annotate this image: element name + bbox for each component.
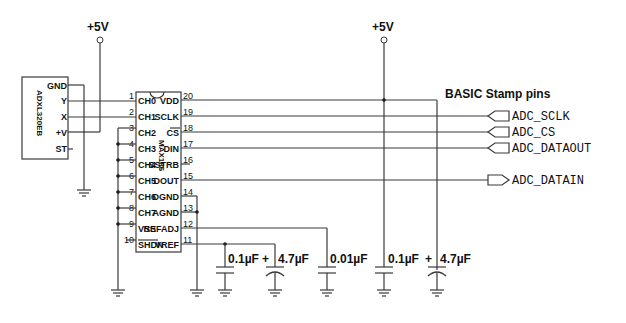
svg-text:CH1: CH1 xyxy=(138,112,156,122)
svg-text:+: + xyxy=(425,252,432,266)
net-adc-datain: ADC_DATAIN xyxy=(488,174,584,188)
ground-icon xyxy=(190,290,204,296)
adxl320eb-module: ADXL320EB GND Y X +V ST xyxy=(22,77,73,159)
capacitor-c3: 0.01µF xyxy=(318,252,368,296)
svg-text:REFADJ: REFADJ xyxy=(143,224,179,234)
svg-text:VREF: VREF xyxy=(155,240,180,250)
net-adc-dataout: ADC_DATAOUT xyxy=(488,142,591,156)
svg-text:SCLK: SCLK xyxy=(155,112,180,122)
input-port-icon xyxy=(488,143,509,153)
basic-stamp-pins: BASIC Stamp pins ADC_SCLK ADC_CS ADC_DAT… xyxy=(445,87,591,188)
power-label-right: +5V xyxy=(372,20,394,34)
svg-text:DIN: DIN xyxy=(164,144,180,154)
output-port-icon xyxy=(488,175,509,185)
capacitor-c2: + 4.7µF xyxy=(262,252,309,296)
svg-text:CS: CS xyxy=(166,128,179,138)
power-5v-left: +5V xyxy=(68,20,109,132)
svg-text:ADC_SCLK: ADC_SCLK xyxy=(512,110,570,124)
svg-text:2: 2 xyxy=(129,107,134,117)
power-terminal-icon xyxy=(381,37,387,43)
ground-icon xyxy=(77,190,91,196)
svg-text:0.1µF: 0.1µF xyxy=(388,252,419,266)
pin-st: ST xyxy=(55,144,67,154)
svg-text:ADC_DATAIN: ADC_DATAIN xyxy=(512,174,584,188)
svg-text:AGND: AGND xyxy=(153,208,180,218)
net-adc-sclk: ADC_SCLK xyxy=(488,110,570,124)
accelerometer-name: ADXL320EB xyxy=(35,90,44,136)
svg-text:CH3: CH3 xyxy=(138,144,156,154)
svg-text:CH2: CH2 xyxy=(138,128,156,138)
ground-icon xyxy=(111,290,125,296)
svg-text:0.1µF: 0.1µF xyxy=(228,252,259,266)
power-5v-right: +5V xyxy=(372,20,394,267)
svg-text:DOUT: DOUT xyxy=(154,176,180,186)
svg-text:4.7µF: 4.7µF xyxy=(278,252,309,266)
net-adc-cs: ADC_CS xyxy=(488,126,555,140)
input-port-icon xyxy=(488,111,509,121)
pin-gnd: GND xyxy=(47,81,68,91)
svg-text:4.7µF: 4.7µF xyxy=(440,252,471,266)
stamp-title: BASIC Stamp pins xyxy=(445,87,551,101)
power-label-left: +5V xyxy=(87,20,109,34)
svg-text:CH0: CH0 xyxy=(138,96,156,106)
pin-x: X xyxy=(61,112,67,122)
pin-plus-v: +V xyxy=(56,128,67,138)
capacitor-c4: 0.1µF xyxy=(375,252,419,296)
svg-text:0.01µF: 0.01µF xyxy=(330,252,368,266)
svg-text:ADC_CS: ADC_CS xyxy=(512,126,555,140)
svg-text:SSTRB: SSTRB xyxy=(148,160,179,170)
pin-y: Y xyxy=(61,96,67,106)
svg-text:+: + xyxy=(262,252,269,266)
svg-text:DGND: DGND xyxy=(153,192,180,202)
schematic-canvas: +5V ADXL320EB GND Y X +V ST MAX186 1 CH0… xyxy=(0,0,626,323)
svg-text:1: 1 xyxy=(129,91,134,101)
capacitor-c5: + 4.7µF xyxy=(425,252,471,296)
svg-text:ADC_DATAOUT: ADC_DATAOUT xyxy=(512,142,591,156)
svg-text:VDD: VDD xyxy=(160,96,180,106)
input-port-icon xyxy=(488,127,509,137)
power-terminal-icon xyxy=(97,37,103,43)
capacitor-c1: 0.1µF xyxy=(216,252,259,296)
